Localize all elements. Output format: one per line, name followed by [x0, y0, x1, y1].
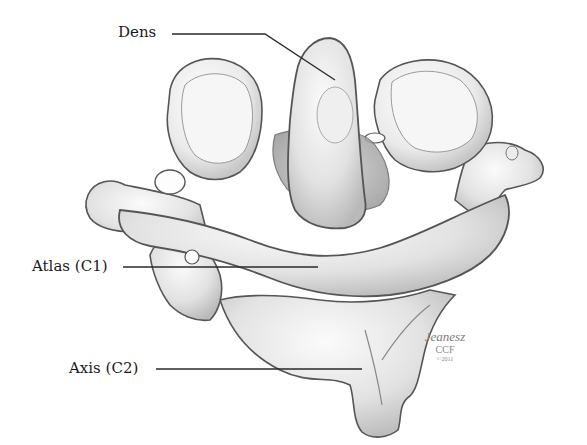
bone-illustration — [0, 0, 587, 445]
label-atlas-c1: Atlas (C1) — [32, 259, 108, 274]
signature-artist: Jeanesz — [410, 330, 480, 343]
signature-org: CCF — [410, 345, 480, 355]
vertebrae-diagram: Dens Atlas (C1) Axis (C2) Jeanesz CCF ©2… — [0, 0, 587, 445]
artist-signature: Jeanesz CCF ©2011 — [410, 330, 480, 362]
label-axis-c2: Axis (C2) — [69, 361, 138, 376]
dens-bone — [288, 38, 366, 228]
signature-year: ©2011 — [410, 356, 480, 362]
label-dens: Dens — [118, 25, 156, 40]
